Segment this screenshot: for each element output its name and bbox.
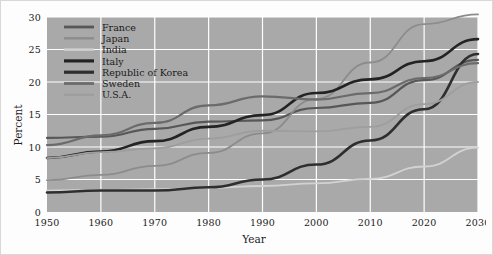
- legend-label-republic-of-korea: Republic of Korea: [102, 67, 188, 78]
- x-tick-label: 1980: [196, 217, 221, 228]
- line-chart-svg: 195019601970198019902000201020202030 051…: [9, 7, 486, 250]
- x-tick-label: 1990: [250, 217, 275, 228]
- y-tick-label: 25: [29, 44, 42, 55]
- y-tick-label: 30: [29, 12, 42, 23]
- x-tick-label: 2000: [304, 217, 329, 228]
- y-axis-title: Percent: [12, 104, 24, 146]
- chart-plot-container: 195019601970198019902000201020202030 051…: [9, 7, 486, 250]
- y-tick-label: 10: [29, 142, 42, 153]
- x-tick-label: 1950: [35, 217, 60, 228]
- legend-label-india: India: [102, 44, 127, 55]
- x-tick-label: 2020: [412, 217, 437, 228]
- y-tick-label: 20: [29, 77, 42, 88]
- y-tick-label: 5: [35, 174, 41, 185]
- x-tick-label: 2030: [466, 217, 486, 228]
- legend-label-japan: Japan: [101, 33, 129, 44]
- x-axis-title: Year: [241, 233, 266, 245]
- y-axis-tick-labels: 051015202530: [29, 12, 42, 218]
- x-tick-label: 1960: [88, 217, 113, 228]
- chart-figure: 195019601970198019902000201020202030 051…: [0, 0, 493, 255]
- y-tick-label: 15: [29, 109, 42, 120]
- legend-label-france: France: [102, 22, 136, 33]
- legend-label-italy: Italy: [102, 56, 124, 67]
- x-tick-label: 1970: [142, 217, 167, 228]
- x-axis-tick-labels: 195019601970198019902000201020202030: [35, 217, 486, 228]
- x-tick-label: 2010: [358, 217, 383, 228]
- y-tick-label: 0: [35, 207, 41, 218]
- legend-label-u-s-a: U.S.A.: [102, 89, 131, 100]
- legend-label-sweden: Sweden: [102, 78, 140, 89]
